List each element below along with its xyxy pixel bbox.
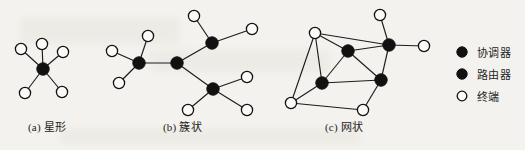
node-end-device-lower-left bbox=[19, 87, 30, 98]
legend-label-coordinator: 协调器 bbox=[477, 44, 511, 60]
node-end-device-bottom-right bbox=[241, 104, 252, 115]
panel-star bbox=[15, 38, 68, 98]
legend-item-end-device: 终端 bbox=[455, 85, 525, 107]
node-coordinator bbox=[37, 63, 49, 75]
panel-mesh bbox=[285, 9, 429, 115]
node-router-lower-right bbox=[207, 83, 219, 95]
node-end-device-right-mid bbox=[241, 71, 252, 82]
hollow-circle-icon bbox=[455, 89, 477, 103]
node-router-left bbox=[316, 77, 328, 89]
caption-cluster-tree: (b) 簇状 bbox=[163, 118, 202, 134]
node-end-device-top-right bbox=[188, 10, 199, 21]
legend-label-router: 路由器 bbox=[477, 66, 511, 82]
node-end-device-top-left bbox=[309, 27, 320, 38]
node-end-device-right-upper bbox=[246, 23, 257, 34]
node-end-device-bottom-left bbox=[182, 104, 193, 115]
topology-canvas bbox=[0, 0, 525, 150]
node-router-center bbox=[342, 45, 354, 57]
link-end-device-top-left-to-router-left bbox=[315, 33, 322, 83]
link-end-device-top-left-to-end-device-bottom-left bbox=[291, 33, 315, 103]
node-end-device-upper-right bbox=[57, 46, 68, 57]
legend-item-router: 路由器 bbox=[455, 63, 525, 85]
legend-item-coordinator: 协调器 bbox=[455, 41, 525, 63]
node-end-device-top-right bbox=[374, 9, 385, 20]
node-router-upper-right bbox=[206, 37, 218, 49]
link-router-left-to-router-right bbox=[322, 80, 381, 83]
network-topology-figure: (a) 星形 (b) 簇状 (c) 网状 协调器 路由器 终端 bbox=[0, 0, 525, 150]
filled-circle-icon bbox=[455, 45, 477, 59]
node-end-device-upper-left bbox=[15, 43, 26, 54]
filled-circle-icon bbox=[455, 67, 477, 81]
node-end-device-far-right bbox=[418, 40, 429, 51]
legend: 协调器 路由器 终端 bbox=[455, 41, 525, 107]
node-end-device-left-side bbox=[106, 45, 117, 56]
node-coordinator-right bbox=[383, 39, 395, 51]
caption-star: (a) 星形 bbox=[28, 118, 66, 134]
node-end-device-left-top bbox=[142, 30, 153, 41]
node-end-device-bottom-left bbox=[285, 97, 296, 108]
node-router-left bbox=[133, 57, 145, 69]
legend-label-end-device: 终端 bbox=[477, 88, 500, 104]
panel-cluster-tree bbox=[106, 10, 257, 115]
node-end-device-top bbox=[36, 38, 47, 49]
node-end-device-bottom-mid bbox=[357, 104, 368, 115]
caption-mesh: (c) 网状 bbox=[325, 118, 363, 134]
link-end-device-bottom-left-to-end-device-bottom-mid bbox=[291, 103, 363, 110]
node-end-device-left-bottom bbox=[113, 77, 124, 88]
node-coordinator-center bbox=[171, 57, 183, 69]
node-router-right bbox=[375, 74, 387, 86]
node-end-device-lower-right bbox=[56, 86, 67, 97]
